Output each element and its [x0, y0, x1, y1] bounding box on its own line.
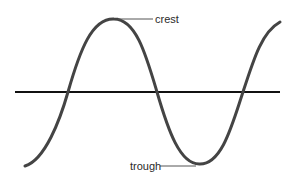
wave-diagram: crest trough: [0, 0, 295, 183]
crest-label: crest: [155, 13, 179, 25]
trough-label: trough: [130, 160, 161, 172]
